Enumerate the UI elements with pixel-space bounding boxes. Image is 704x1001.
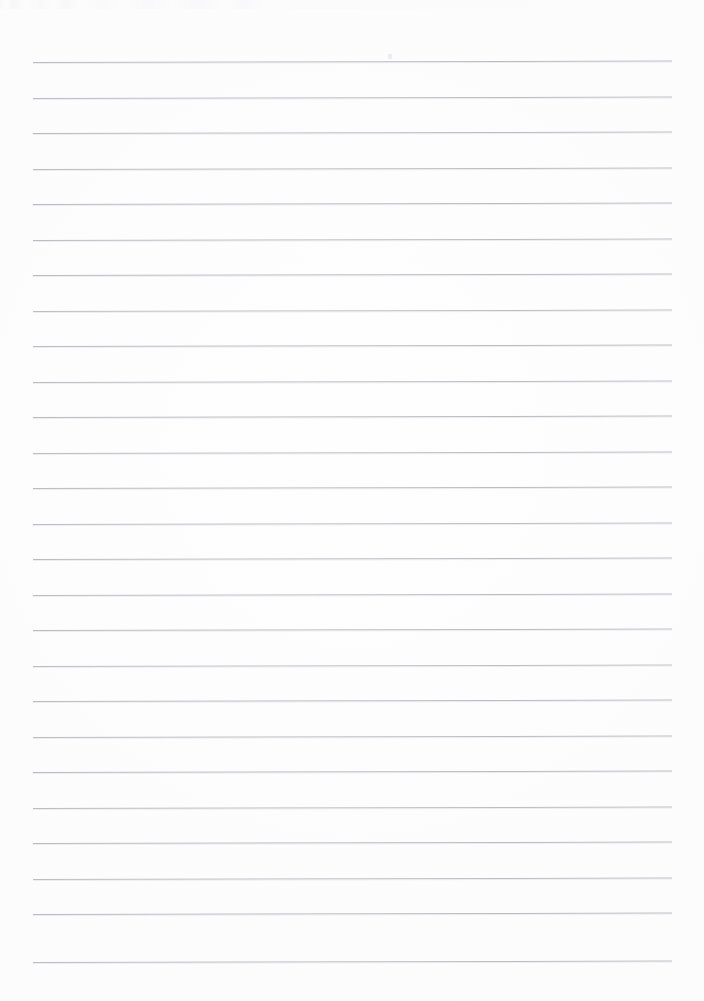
- rule-line: [33, 451, 672, 453]
- rule-line: [33, 593, 672, 595]
- scan-noise-top-edge: [0, 0, 704, 9]
- rule-line: [33, 238, 672, 240]
- rule-line: [33, 877, 672, 879]
- rule-line: [33, 735, 672, 737]
- rule-line: [33, 558, 672, 560]
- rule-line: [33, 664, 672, 666]
- rule-line: [33, 487, 672, 489]
- rule-line: [33, 345, 672, 347]
- rule-line: [33, 416, 672, 418]
- scan-speck-artifact: [388, 54, 392, 59]
- rule-line: [33, 700, 672, 702]
- rule-line: [33, 61, 672, 63]
- rule-line: [33, 274, 672, 276]
- rule-line: [33, 629, 672, 631]
- rule-line: [33, 203, 672, 205]
- rule-line: [33, 132, 672, 134]
- rule-line: [33, 380, 672, 382]
- rule-line: [33, 771, 672, 773]
- lined-page-document: [0, 0, 704, 1001]
- rule-line: [33, 522, 672, 524]
- rule-line: [33, 167, 672, 169]
- paper-texture-overlay: [0, 0, 704, 1001]
- rule-line: [33, 961, 672, 963]
- rule-line: [33, 806, 672, 808]
- rule-line: [33, 309, 672, 311]
- rule-line: [33, 842, 672, 844]
- rule-line: [33, 913, 672, 915]
- rule-line: [33, 96, 672, 98]
